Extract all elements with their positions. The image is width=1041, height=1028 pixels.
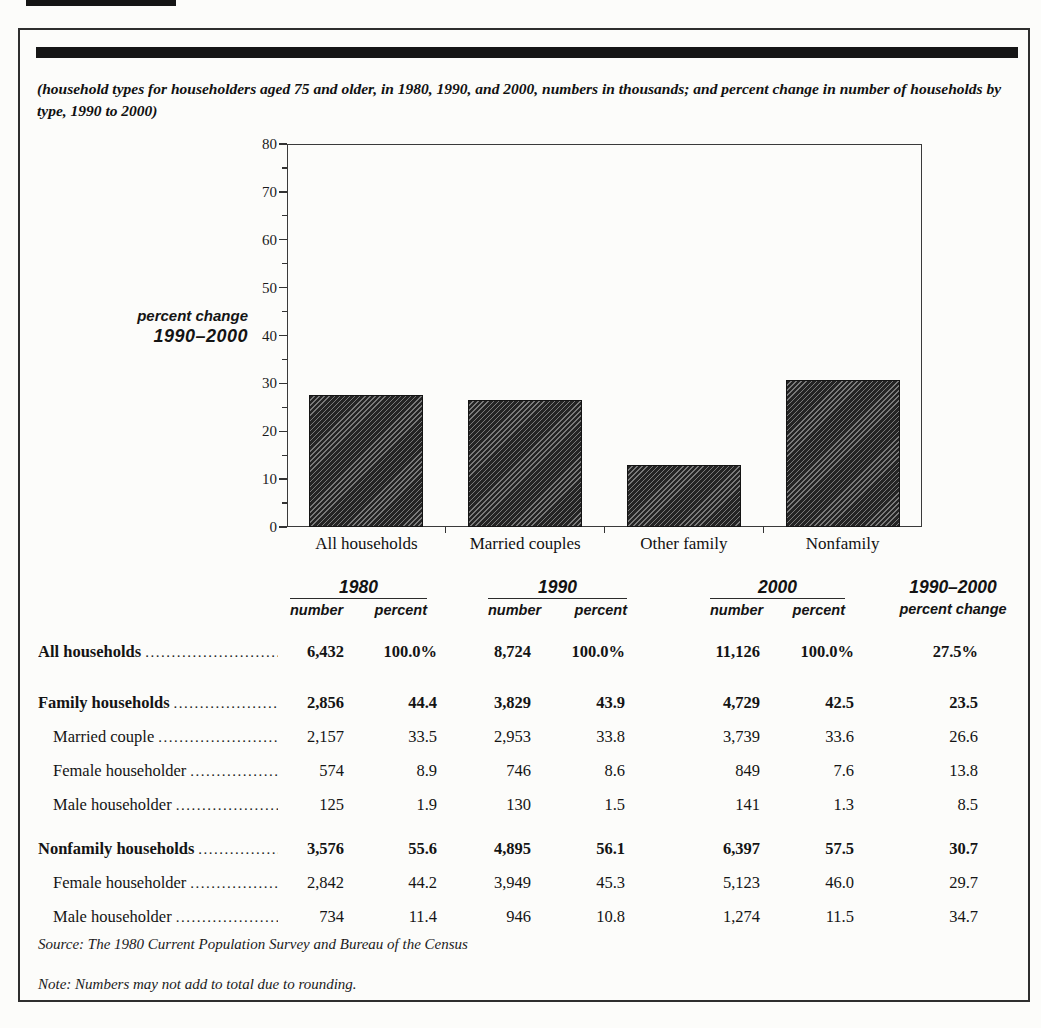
cell-value: 4,895: [437, 839, 531, 859]
cell-value: 3,949: [437, 873, 531, 893]
row-label-cell: Female householder: [38, 761, 278, 781]
cell-value: 55.6: [344, 839, 437, 859]
cell-value: 2,157: [278, 727, 344, 747]
cell-value: 8.6: [531, 761, 625, 781]
subheader-number: number: [290, 602, 343, 618]
cell-value: 29.7: [854, 873, 978, 893]
dot-leader: [198, 841, 278, 858]
bar-married-couples: [468, 400, 582, 527]
cell-value: 11.5: [760, 907, 854, 927]
cell-value: 734: [278, 907, 344, 927]
table-row: Married couple2,15733.52,95333.83,73933.…: [38, 720, 978, 754]
y-tick-label-50: 50: [245, 278, 277, 298]
x-category-label: Nonfamily: [763, 534, 922, 554]
y-tick-mark: [279, 478, 287, 479]
cell-value: 4,729: [625, 693, 760, 713]
row-label-cell: Female householder: [38, 873, 278, 893]
cell-value: 849: [625, 761, 760, 781]
col-group-year-label: 2000: [710, 577, 845, 599]
figure-caption: (household types for householders aged 7…: [37, 78, 1013, 122]
y-minor-tick-mark: [282, 263, 287, 264]
table-row: Family households2,85644.43,82943.94,729…: [38, 686, 978, 720]
cell-value: 2,842: [278, 873, 344, 893]
x-tick-mark: [604, 527, 605, 533]
cell-value: 3,576: [278, 839, 344, 859]
cell-value: 141: [625, 795, 760, 815]
y-minor-tick-mark: [282, 407, 287, 408]
col-group-year-label: 1990–2000: [888, 577, 1018, 598]
row-label-cell: Married couple: [38, 727, 278, 747]
y-tick-mark: [279, 191, 287, 192]
y-tick-label-20: 20: [245, 421, 277, 441]
cell-value: 43.9: [531, 693, 625, 713]
y-tick-label-10: 10: [245, 469, 277, 489]
col-group-1990: 1990numberpercent: [488, 577, 627, 618]
x-category-label: All households: [287, 534, 446, 554]
y-axis-title-line1: percent change: [100, 306, 248, 326]
cell-value: 34.7: [854, 907, 978, 927]
y-tick-mark: [279, 143, 287, 144]
col-group-subheaders: numberpercent: [488, 602, 627, 618]
y-tick-label-60: 60: [245, 230, 277, 250]
cell-value: 1.5: [531, 795, 625, 815]
subheader-percent-change: percent change: [899, 601, 1006, 617]
x-tick-mark: [763, 527, 764, 533]
data-table: 1980numberpercent1990numberpercent2000nu…: [38, 577, 978, 937]
row-label-cell: Family households: [38, 693, 278, 713]
cell-value: 2,953: [437, 727, 531, 747]
row-label: Married couple: [53, 727, 154, 747]
bar-all-households: [309, 395, 423, 527]
col-group-1980: 1980numberpercent: [290, 577, 427, 618]
dot-leader: [158, 729, 278, 746]
y-tick-mark: [279, 287, 287, 288]
cell-value: 8.5: [854, 795, 978, 815]
cell-value: 946: [437, 907, 531, 927]
y-tick-mark: [279, 526, 287, 527]
y-minor-tick-mark: [282, 167, 287, 168]
cell-value: 30.7: [854, 839, 978, 859]
cell-value: 11.4: [344, 907, 437, 927]
table-row: Male householder73411.494610.81,27411.53…: [38, 900, 978, 934]
col-group-1990–2000: 1990–2000percent change: [888, 577, 1018, 617]
x-tick-mark: [445, 527, 446, 533]
col-group-year-label: 1980: [290, 577, 427, 599]
cell-value: 46.0: [760, 873, 854, 893]
top-rule-bar: [36, 47, 1018, 58]
row-label: Family households: [38, 693, 170, 713]
cell-value: 746: [437, 761, 531, 781]
col-group-2000: 2000numberpercent: [710, 577, 845, 618]
dot-leader: [145, 644, 278, 661]
subheader-percent: percent: [575, 602, 627, 618]
cell-value: 42.5: [760, 693, 854, 713]
table-row: Female householder5748.97468.68497.613.8: [38, 754, 978, 788]
cell-value: 100.0%: [760, 642, 854, 662]
table-row: All households6,432100.0%8,724100.0%11,1…: [38, 635, 978, 669]
cell-value: 1.9: [344, 795, 437, 815]
subheader-percent: percent: [375, 602, 427, 618]
col-group-subheaders: numberpercent: [290, 602, 427, 618]
cell-value: 44.4: [344, 693, 437, 713]
cell-value: 3,829: [437, 693, 531, 713]
table-row: Male householder1251.91301.51411.38.5: [38, 788, 978, 822]
cell-value: 6,397: [625, 839, 760, 859]
row-label-cell: Male householder: [38, 795, 278, 815]
cell-value: 33.8: [531, 727, 625, 747]
bar-other-family: [627, 465, 741, 527]
dot-leader: [176, 797, 278, 814]
cell-value: 100.0%: [344, 642, 437, 662]
row-label-cell: Nonfamily households: [38, 839, 278, 859]
y-tick-mark: [279, 383, 287, 384]
table-row: Nonfamily households3,57655.64,89556.16,…: [38, 832, 978, 866]
subheader-percent: percent: [793, 602, 845, 618]
cell-value: 7.6: [760, 761, 854, 781]
y-tick-label-30: 30: [245, 373, 277, 393]
y-tick-label-80: 80: [245, 134, 277, 154]
cell-value: 33.6: [760, 727, 854, 747]
x-category-label: Married couples: [446, 534, 605, 554]
y-axis-title: percent change 1990–2000: [100, 306, 248, 347]
col-group-year-label: 1990: [488, 577, 627, 599]
cell-value: 8,724: [437, 642, 531, 662]
cell-value: 2,856: [278, 693, 344, 713]
x-category-label: Other family: [605, 534, 764, 554]
cell-value: 45.3: [531, 873, 625, 893]
